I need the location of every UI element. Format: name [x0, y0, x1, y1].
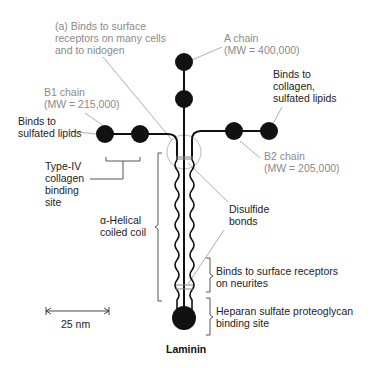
binds-sulfated-lipids-label: Binds to sulfated lipids	[18, 115, 82, 139]
a-chain-label: A chain (MW = 400,000)	[224, 32, 300, 56]
a-chain-globule-2	[175, 90, 193, 108]
b1-chain-globule-inner	[131, 125, 149, 143]
figure-title: Laminin	[166, 343, 206, 355]
a-chain-globule-bottom	[172, 306, 196, 330]
b1-chain-label: B1 chain (MW = 215,000)	[44, 86, 120, 110]
b2-chain-label: B2 chain (MW = 205,000)	[264, 150, 340, 174]
disulfide-label: Disulfide bonds	[229, 203, 269, 227]
neurites-label: Binds to surface receptors on neurites	[216, 265, 338, 289]
heparan-label: Heparan sulfate proteoglycan binding sit…	[216, 305, 353, 329]
top-binding-label: (a) Binds to surface receptors on many c…	[55, 20, 166, 56]
b1-chain-globule-outer	[96, 125, 114, 143]
scale-bar-label: 25 nm	[61, 318, 90, 330]
binds-collagen-label: Binds to collagen, sulfated lipids	[273, 68, 337, 104]
a-chain-globule-top	[175, 53, 193, 71]
b2-chain-globule-inner	[225, 122, 243, 140]
type-iv-collagen-label: Type-IV collagen binding site	[45, 160, 84, 208]
alpha-helical-label: α-Helical coiled coil	[100, 214, 146, 238]
scale-bar	[46, 307, 109, 315]
b2-chain-globule-outer	[260, 122, 278, 140]
